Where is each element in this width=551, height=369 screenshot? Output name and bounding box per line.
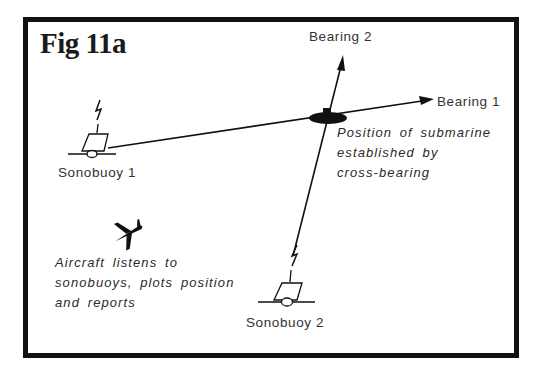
bearing-2-label: Bearing 2: [309, 29, 372, 44]
figure-title: Fig 11a: [40, 27, 126, 60]
note-line: established by: [337, 143, 491, 163]
note-line: Aircraft listens to: [55, 253, 234, 273]
sonobuoy-icon: [68, 100, 116, 158]
lightning-icon: [96, 100, 101, 120]
submarine-note: Position of submarine established by cro…: [337, 123, 491, 183]
sonobuoy-1-label: Sonobuoy 1: [58, 165, 136, 180]
note-line: cross-bearing: [337, 163, 491, 183]
note-line: sonobuoys, plots position: [55, 273, 234, 293]
submarine-position-icon: [309, 108, 347, 124]
aircraft-note: Aircraft listens to sonobuoys, plots pos…: [55, 253, 234, 313]
sonobuoy-icon: [258, 245, 315, 306]
arrowhead-icon: [419, 96, 434, 105]
arrowhead-icon: [337, 55, 345, 71]
note-line: Position of submarine: [337, 123, 491, 143]
sonobuoy-2-label: Sonobuoy 2: [246, 315, 324, 330]
bearing-1-label: Bearing 1: [437, 94, 500, 109]
note-line: and reports: [55, 293, 234, 313]
airplane-icon: [108, 214, 148, 253]
